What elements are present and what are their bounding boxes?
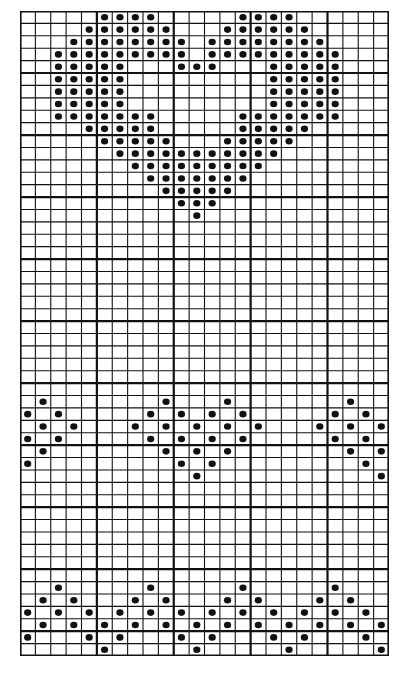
- stitch-dot: [116, 14, 123, 21]
- stitch-dot: [270, 76, 277, 83]
- stitch-dot: [178, 188, 185, 195]
- stitch-dot: [332, 584, 339, 591]
- stitch-dot: [285, 76, 292, 83]
- stitch-dot: [239, 39, 246, 46]
- stitch-dot: [193, 448, 200, 455]
- stitch-dot: [239, 175, 246, 182]
- stitch-dot: [162, 423, 169, 430]
- stitch-dot: [255, 597, 262, 604]
- stitch-dot: [316, 113, 323, 120]
- stitch-dot: [116, 39, 123, 46]
- stitch-dot: [55, 76, 62, 83]
- stitch-dot: [270, 51, 277, 58]
- stitch-dot: [70, 101, 77, 108]
- stitch-dot: [224, 51, 231, 58]
- stitch-dot: [178, 609, 185, 616]
- stitch-dot: [255, 150, 262, 157]
- stitch-dot: [224, 150, 231, 157]
- stitch-dot: [39, 448, 46, 455]
- stitch-dot: [239, 113, 246, 120]
- stitch-dot: [209, 188, 216, 195]
- stitch-dot: [193, 150, 200, 157]
- stitch-dot: [162, 51, 169, 58]
- stitch-dot: [178, 39, 185, 46]
- stitch-dot: [193, 646, 200, 653]
- stitch-dot: [86, 609, 93, 616]
- stitch-dot: [101, 26, 108, 33]
- stitch-dot: [378, 473, 385, 480]
- stitch-dot: [70, 51, 77, 58]
- stitch-dot: [332, 64, 339, 71]
- stitch-dot: [224, 175, 231, 182]
- stitch-dot: [178, 460, 185, 467]
- stitch-dot: [178, 200, 185, 207]
- stitch-dot: [162, 39, 169, 46]
- stitch-dot: [132, 126, 139, 133]
- stitch-dot: [86, 64, 93, 71]
- stitch-dot: [301, 39, 308, 46]
- stitch-dot: [55, 51, 62, 58]
- stitch-dot: [162, 398, 169, 405]
- stitch-dot: [332, 51, 339, 58]
- stitch-dot: [316, 423, 323, 430]
- stitch-dot: [162, 188, 169, 195]
- stitch-dot: [239, 411, 246, 418]
- stitch-dot: [24, 436, 31, 443]
- stitch-dot: [86, 101, 93, 108]
- stitch-dot: [285, 26, 292, 33]
- stitch-dot: [209, 411, 216, 418]
- stitch-dot: [332, 113, 339, 120]
- stitch-dot: [116, 113, 123, 120]
- stitch-dot: [332, 436, 339, 443]
- stitch-dot: [178, 411, 185, 418]
- stitch-dot: [55, 609, 62, 616]
- stitch-dot: [224, 138, 231, 145]
- stitch-dot: [239, 163, 246, 170]
- stitch-dot: [132, 51, 139, 58]
- stitch-dot: [116, 76, 123, 83]
- stitch-dot: [55, 88, 62, 95]
- stitch-dot: [270, 113, 277, 120]
- stitch-dot: [209, 609, 216, 616]
- stitch-dot: [270, 126, 277, 133]
- stitch-dot: [301, 609, 308, 616]
- stitch-dot: [147, 609, 154, 616]
- stitch-dot: [147, 39, 154, 46]
- stitch-dot: [55, 436, 62, 443]
- stitch-dot: [147, 138, 154, 145]
- stitch-dot: [116, 26, 123, 33]
- stitch-dot: [316, 88, 323, 95]
- stitch-dot: [147, 126, 154, 133]
- stitch-dot: [255, 113, 262, 120]
- stitch-dot: [86, 113, 93, 120]
- stitch-dot: [116, 51, 123, 58]
- stitch-dot: [316, 597, 323, 604]
- stitch-dot: [270, 64, 277, 71]
- stitch-dot: [378, 622, 385, 629]
- stitch-dot: [193, 163, 200, 170]
- stitch-dot: [347, 448, 354, 455]
- stitch-dot: [162, 622, 169, 629]
- stitch-dot: [347, 597, 354, 604]
- stitch-dot: [24, 411, 31, 418]
- stitch-dot: [285, 51, 292, 58]
- stitch-dot: [116, 101, 123, 108]
- stitch-dot: [224, 448, 231, 455]
- stitch-dot: [239, 126, 246, 133]
- stitch-dot: [101, 126, 108, 133]
- stitch-dot: [224, 597, 231, 604]
- stitch-dot: [316, 39, 323, 46]
- stitch-dot: [162, 175, 169, 182]
- stitch-dot: [316, 51, 323, 58]
- stitch-dot: [301, 64, 308, 71]
- stitch-dot: [301, 634, 308, 641]
- stitch-dot: [193, 175, 200, 182]
- stitch-dot: [239, 150, 246, 157]
- stitch-dot: [147, 26, 154, 33]
- stitch-dot: [101, 646, 108, 653]
- stitch-dot: [285, 88, 292, 95]
- stitch-dot: [362, 436, 369, 443]
- stitch-dot: [316, 64, 323, 71]
- stitch-dot: [132, 150, 139, 157]
- stitch-dot: [362, 411, 369, 418]
